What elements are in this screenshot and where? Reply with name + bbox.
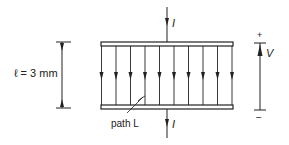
dimension-arrow-down-icon [60, 99, 64, 107]
plate-separation-dimension [56, 42, 71, 108]
voltage-arrow-icon [258, 44, 263, 56]
current-arrow-icon [165, 119, 169, 127]
electric-field-lines [102, 46, 233, 105]
voltage-plus: + [257, 30, 262, 40]
current-arrow-icon [165, 18, 169, 26]
voltage-minus: − [256, 112, 262, 123]
path-label: path L [111, 118, 139, 129]
capacitor-diagram: I I ℓ = 3 mm + − V path L [0, 0, 289, 145]
top-plate [101, 42, 233, 46]
current-label-top: I [172, 17, 175, 29]
bottom-plate [101, 105, 233, 109]
field-arrowheads [100, 72, 235, 80]
separation-label: ℓ = 3 mm [14, 67, 58, 79]
current-label-bottom: I [172, 118, 175, 130]
current-wire-bottom: I [165, 109, 175, 138]
dimension-arrow-up-icon [60, 43, 64, 51]
current-wire-top: I [165, 7, 175, 42]
voltage-label: V [266, 47, 275, 59]
